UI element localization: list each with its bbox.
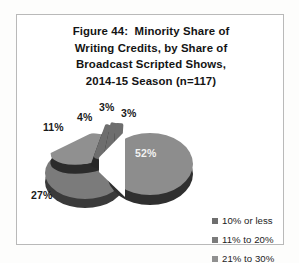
legend-item-11-to-20[interactable]: 11% to 20% — [212, 230, 298, 249]
figure-title: Figure 44: Minority Share of Writing Cre… — [17, 23, 285, 89]
legend-swatch-icon — [212, 256, 218, 262]
figure-title-line-3: Broadcast Scripted Shows, — [17, 56, 285, 73]
legend-swatch-icon — [212, 218, 218, 224]
data-label-27: 27% — [31, 189, 52, 201]
pie-chart: 52% 27% 11% 4% 3% 3% — [29, 101, 201, 241]
legend-label: 21% to 30% — [222, 253, 274, 263]
chart-plot-area: 52% 27% 11% 4% 3% 3% 10% or less 11% to … — [19, 99, 283, 243]
legend-swatch-icon — [212, 237, 218, 243]
chart-legend: 10% or less 11% to 20% 21% to 30% 31% to… — [212, 211, 298, 263]
page-background: Figure 44: Minority Share of Writing Cre… — [0, 0, 299, 263]
figure-title-line-2: Writing Credits, by Share of — [17, 40, 285, 57]
legend-item-21-to-30[interactable]: 21% to 30% — [212, 249, 298, 263]
figure-frame: Figure 44: Minority Share of Writing Cre… — [16, 14, 284, 245]
legend-label: 11% to 20% — [222, 234, 274, 245]
data-label-3a: 3% — [99, 101, 114, 113]
figure-title-line-4: 2014-15 Season (n=117) — [17, 73, 285, 90]
data-label-4: 4% — [77, 111, 92, 123]
legend-item-10-or-less[interactable]: 10% or less — [212, 211, 298, 230]
data-label-52: 52% — [135, 147, 156, 159]
figure-title-line-1: Figure 44: Minority Share of — [17, 23, 285, 40]
data-label-3b: 3% — [121, 107, 136, 119]
legend-label: 10% or less — [222, 215, 273, 226]
data-label-11: 11% — [43, 121, 64, 133]
